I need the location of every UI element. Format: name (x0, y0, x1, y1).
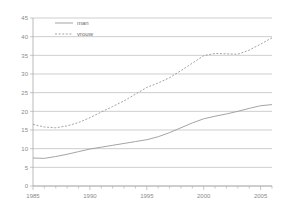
y-tick-label: 30 (21, 71, 28, 77)
x-tick-label: 1990 (83, 193, 97, 199)
y-tick-label: 20 (21, 109, 28, 115)
line-chart: 051015202530354045 19851990199520002005 … (0, 0, 283, 215)
series-line-man (33, 105, 272, 159)
series-lines (33, 38, 272, 159)
y-tick-label: 5 (25, 165, 29, 171)
legend-label-vrouw: vrouw (77, 31, 94, 37)
y-tick-label: 40 (21, 34, 28, 40)
x-tick-label: 2005 (254, 193, 268, 199)
y-tick-label: 35 (21, 53, 28, 59)
x-axis: 19851990199520002005 (26, 186, 272, 199)
y-tick-label: 15 (21, 127, 28, 133)
y-tick-label: 0 (25, 183, 29, 189)
y-tick-label: 45 (21, 15, 28, 21)
x-tick-label: 2000 (197, 193, 211, 199)
chart-canvas: 051015202530354045 19851990199520002005 … (0, 0, 283, 215)
y-axis: 051015202530354045 (21, 15, 33, 189)
x-tick-label: 1985 (26, 193, 40, 199)
legend-label-man: man (77, 20, 89, 26)
gridlines (33, 18, 272, 186)
y-tick-label: 25 (21, 90, 28, 96)
x-tick-label: 1995 (140, 193, 154, 199)
y-tick-label: 10 (21, 146, 28, 152)
series-line-vrouw (33, 38, 272, 128)
